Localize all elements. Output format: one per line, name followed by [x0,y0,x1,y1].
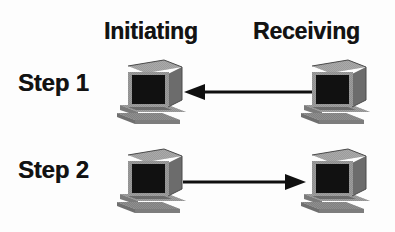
computer-icon [112,50,190,126]
arrow-right-icon [183,172,307,192]
step-label-2: Step 2 [18,158,89,182]
computer-icon [296,50,374,126]
computer-icon [112,139,190,215]
computer-icon [296,139,374,215]
column-heading-initiating: Initiating [104,20,198,43]
step-label-1: Step 1 [18,71,89,95]
network-step-diagram: Initiating Receiving Step 1 [0,0,395,232]
column-heading-receiving: Receiving [253,20,360,43]
